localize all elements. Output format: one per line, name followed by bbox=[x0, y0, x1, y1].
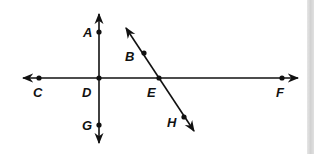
label-h: H bbox=[167, 115, 177, 130]
point-f bbox=[279, 75, 284, 80]
point-g bbox=[96, 122, 101, 127]
point-h bbox=[181, 114, 186, 119]
label-d: D bbox=[82, 85, 92, 100]
point-b bbox=[141, 50, 146, 55]
label-e: E bbox=[147, 85, 156, 100]
label-f: F bbox=[276, 85, 285, 100]
point-a bbox=[96, 29, 101, 34]
label-b: B bbox=[125, 49, 134, 64]
point-d bbox=[96, 75, 101, 80]
label-a: A bbox=[82, 25, 92, 40]
point-e bbox=[156, 75, 161, 80]
geometry-diagram: ABCDEFGH bbox=[0, 0, 314, 154]
point-c bbox=[36, 75, 41, 80]
scrollbar-edge bbox=[307, 0, 314, 154]
label-c: C bbox=[33, 85, 43, 100]
label-g: G bbox=[82, 118, 92, 133]
